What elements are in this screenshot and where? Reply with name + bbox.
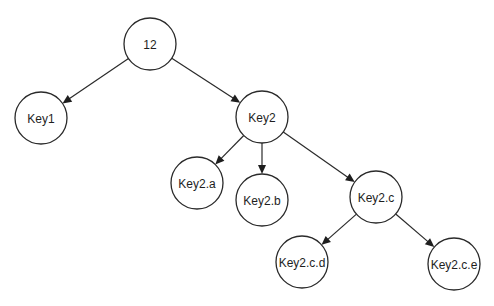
edge-key2-to-key2c <box>283 132 354 182</box>
node-label: Key2.b <box>243 194 281 208</box>
node-label: 12 <box>143 38 157 52</box>
arrowhead-icon <box>345 174 355 182</box>
edge-line <box>220 136 243 160</box>
node-label: Key2.c.e <box>431 258 478 272</box>
edge-line <box>68 59 128 100</box>
node-key1: Key1 <box>15 92 67 144</box>
node-key2c: Key2.c <box>350 171 402 223</box>
edge-line <box>327 214 357 240</box>
edge-key2c-to-key2cd <box>322 214 357 245</box>
node-key2ce: Key2.c.e <box>428 238 480 290</box>
node-label: Key2.c <box>358 191 395 205</box>
arrowhead-icon <box>258 165 266 174</box>
edge-root-to-key2 <box>172 58 240 103</box>
edge-line <box>396 214 429 242</box>
node-label: Key2.a <box>178 177 216 191</box>
node-label: Key2 <box>248 111 276 125</box>
node-key2: Key2 <box>236 91 288 143</box>
arrowhead-icon <box>230 95 240 103</box>
node-label: Key1 <box>27 112 55 126</box>
tree-diagram: 12Key1Key2Key2.aKey2.bKey2.cKey2.c.dKey2… <box>0 0 494 306</box>
edge-key2-to-key2b <box>258 143 266 174</box>
edge-key2-to-key2a <box>215 136 244 165</box>
edge-line <box>172 58 234 99</box>
node-key2a: Key2.a <box>171 157 223 209</box>
node-root: 12 <box>124 18 176 70</box>
node-key2cd: Key2.c.d <box>276 236 328 288</box>
node-label: Key2.c.d <box>279 256 326 270</box>
edge-line <box>283 132 349 178</box>
edge-key2c-to-key2ce <box>396 214 435 247</box>
nodes-layer: 12Key1Key2Key2.aKey2.bKey2.cKey2.c.dKey2… <box>15 18 480 290</box>
edge-root-to-key1 <box>63 59 129 104</box>
node-key2b: Key2.b <box>236 174 288 226</box>
arrowhead-icon <box>63 95 73 103</box>
